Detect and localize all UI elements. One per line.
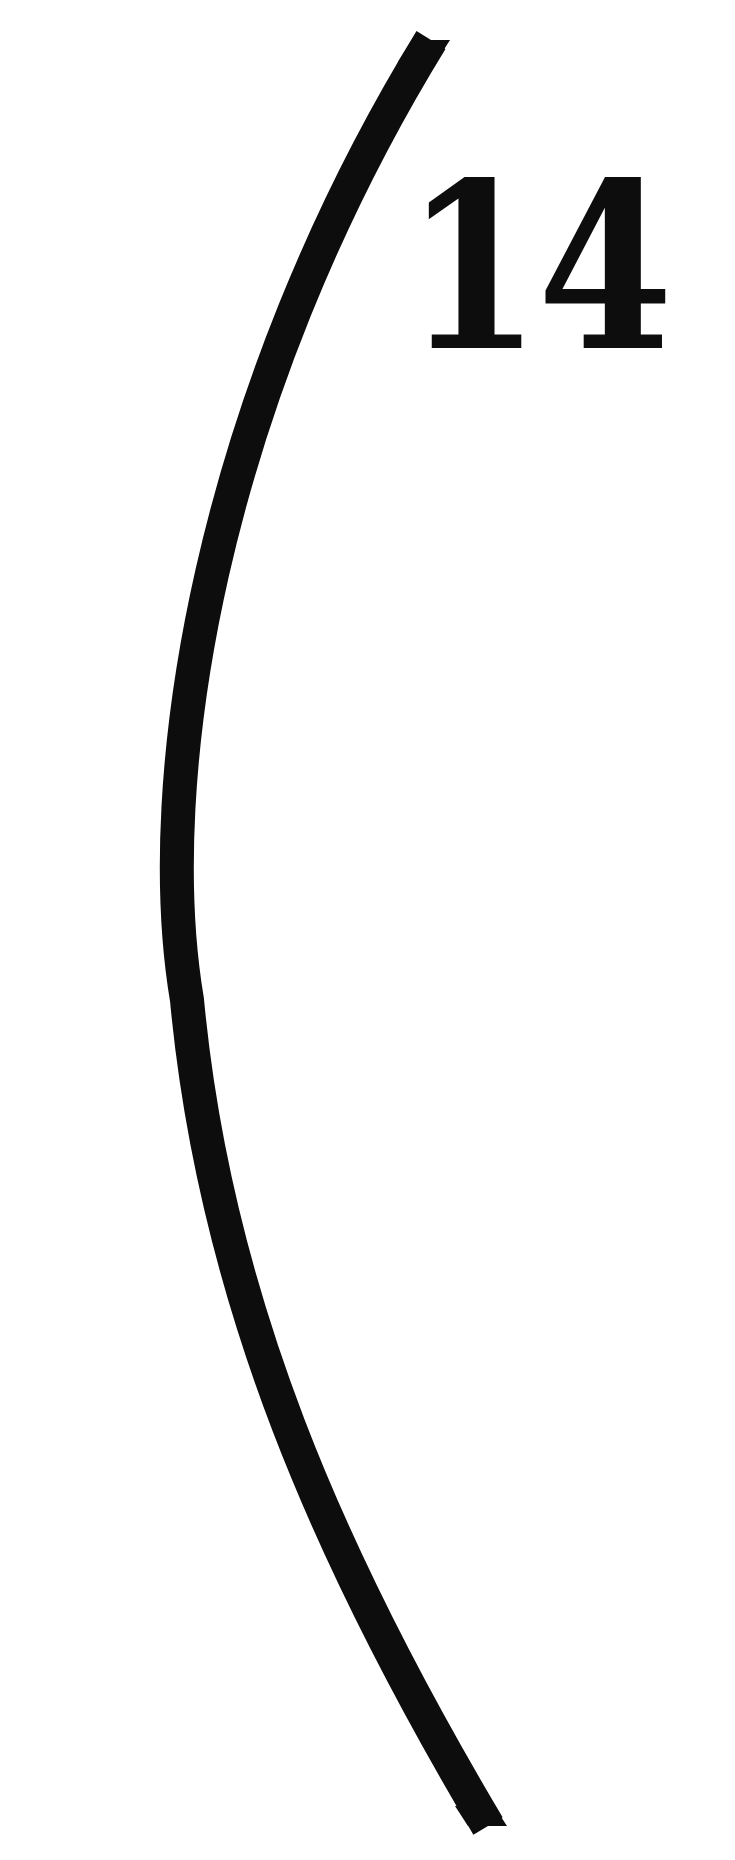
figure-canvas: 14 — [0, 0, 735, 1860]
number-label: 14 — [405, 152, 670, 382]
